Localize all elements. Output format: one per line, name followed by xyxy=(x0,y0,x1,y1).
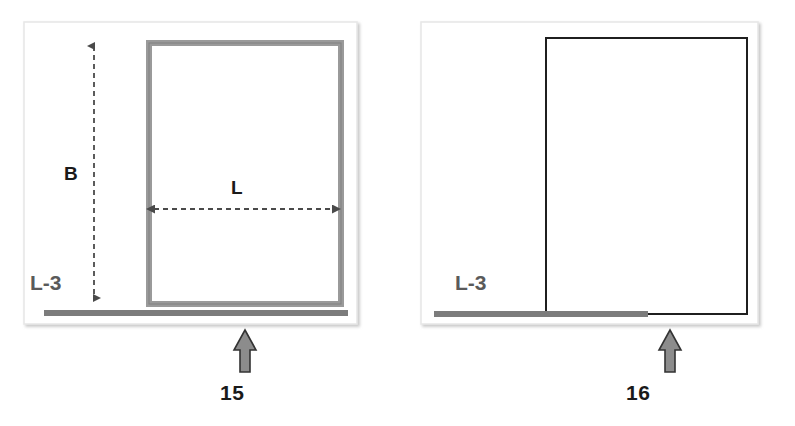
panel-left xyxy=(24,22,357,372)
dimension-label-l: L xyxy=(231,177,243,199)
panel-number-15: 15 xyxy=(220,381,244,405)
panel-number-16: 16 xyxy=(626,381,650,405)
dimension-label-b: B xyxy=(64,163,78,185)
callout-arrow-16 xyxy=(659,330,681,372)
callout-arrow-15 xyxy=(234,330,256,372)
figure-root: B L L-3 L-3 15 16 xyxy=(0,0,795,426)
base-label-left: L-3 xyxy=(30,271,62,295)
panel-right-member-rectangle xyxy=(546,38,747,314)
panel-right xyxy=(421,22,758,372)
figure-svg xyxy=(0,0,795,426)
base-label-right: L-3 xyxy=(455,271,487,295)
panel-left-member-rectangle xyxy=(149,43,341,304)
